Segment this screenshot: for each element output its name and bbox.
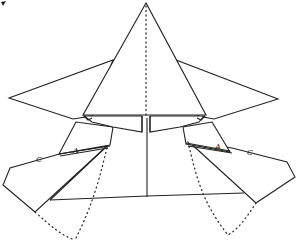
right-inner-flap [183, 122, 230, 152]
label-right-a: A [214, 142, 221, 151]
central-triangle [83, 3, 206, 115]
left-inner-flap [59, 122, 113, 154]
label-right-c: C [247, 148, 253, 157]
label-left-c: C [36, 155, 42, 164]
folding-diagram: C A A C [0, 0, 297, 241]
label-left-a: A [72, 146, 79, 155]
left-lower-panel [3, 146, 107, 212]
corner-mark [1, 1, 6, 6]
